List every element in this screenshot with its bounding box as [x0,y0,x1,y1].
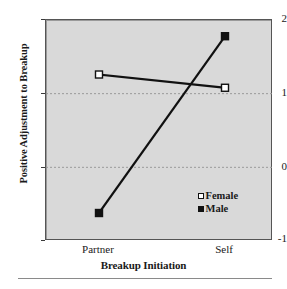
y-tick-mark-neg1 [41,240,45,241]
series-male [96,33,229,217]
x-axis-title: Breakup Initiation [0,259,287,271]
data-point-female-partner [96,71,103,78]
series-female [96,71,229,91]
x-tick-label-self: Self [179,243,269,256]
y-tick-label-neg1: -1 [273,233,287,244]
plot-canvas [46,20,273,241]
y-tick-label-2: 2 [273,13,287,24]
open-square-icon [198,193,204,199]
figure: Positive Adjustment to Breakup 2 1 0 -1 [0,0,287,289]
y-axis-title: Positive Adjustment to Breakup [18,9,29,219]
gridlines [46,94,273,168]
data-point-male-partner [96,210,103,217]
legend-item-female: Female [198,190,238,203]
y-tick-label-0: 0 [273,161,287,172]
chart-legend: Female Male [198,190,238,215]
series-male-line [99,36,225,213]
legend-label-female: Female [206,190,239,203]
legend-label-male: Male [206,203,229,216]
data-point-female-self [222,84,229,91]
filled-square-icon [198,206,204,212]
series-female-line [99,75,225,88]
x-tick-label-partner: Partner [53,243,143,256]
bottom-rule [18,278,272,279]
y-tick-label-1: 1 [273,87,287,98]
legend-item-male: Male [198,203,238,216]
data-point-male-self [222,33,229,40]
